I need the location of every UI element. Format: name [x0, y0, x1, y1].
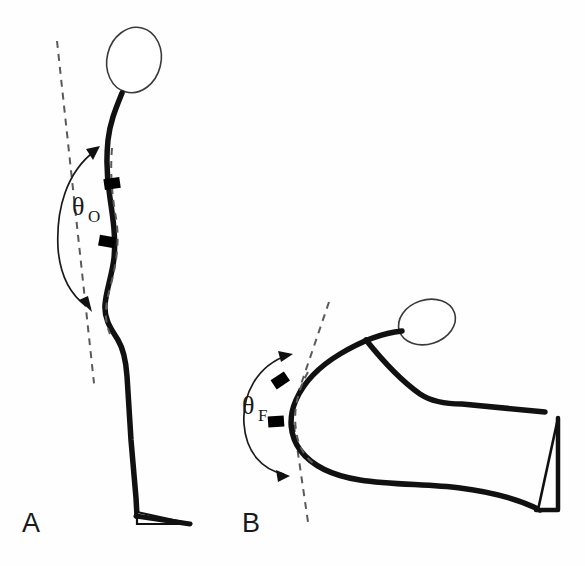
sensor-marker-lower-b [268, 415, 285, 427]
sensor-marker-upper-a [103, 177, 120, 190]
angle-subscript-b: F [258, 406, 267, 425]
angle-symbol-a: θ [72, 192, 84, 221]
angle-subscript-a: O [88, 207, 100, 226]
panel-letter-a: A [22, 508, 40, 538]
angle-symbol-b: θ [242, 391, 254, 420]
posture-angle-diagram: θ O A [0, 0, 585, 566]
figure-container: θ O A [0, 0, 585, 566]
figure-background [0, 0, 585, 566]
panel-letter-b: B [242, 508, 260, 538]
